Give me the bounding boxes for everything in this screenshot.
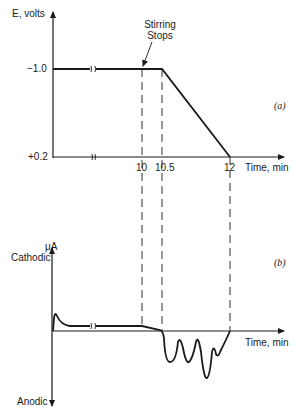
panel-b-label: (b): [274, 258, 286, 268]
panel-b-plot: [52, 248, 284, 406]
axis-break-icon: [91, 66, 96, 72]
current-trace: [53, 314, 230, 378]
y-axis-unit-microamp: μA: [45, 242, 57, 252]
cathodic-label: Cathodic: [11, 253, 50, 263]
y-tick-plus-0-2: +0.2: [28, 152, 48, 162]
x-tick-10-5: 10.5: [155, 163, 174, 173]
x-tick-10: 10: [136, 163, 147, 173]
time-guides: [142, 69, 230, 331]
stirring-annotation: Stirring Stops: [138, 20, 182, 41]
panel-a-label: (a): [274, 101, 286, 111]
axis-break-icon: [91, 323, 96, 329]
x-tick-12: 12: [224, 163, 235, 173]
y-axis-label-potential: E, volts: [12, 9, 45, 19]
x-axis-label-b: Time, min: [245, 338, 289, 348]
anodic-label: Anodic: [17, 397, 48, 407]
stirring-annotation-line2: Stops: [138, 31, 182, 41]
potential-trace: [53, 69, 230, 157]
x-axis-label-a: Time, min: [245, 163, 289, 173]
y-tick-minus-1: −1.0: [27, 64, 47, 74]
stirring-annotation-line1: Stirring: [138, 20, 182, 30]
stirring-arrow: [143, 42, 152, 66]
